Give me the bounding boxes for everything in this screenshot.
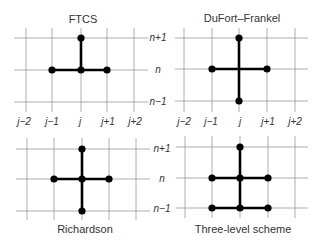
panel-richardson: Richardson	[16, 138, 150, 235]
stencil-node	[77, 34, 84, 41]
stencil-node	[78, 145, 85, 152]
stencil-node	[78, 207, 85, 214]
panel-title: FTCS	[69, 13, 98, 25]
panel-title: Three-level scheme	[195, 223, 292, 235]
stencil-node	[263, 65, 270, 72]
stencil-node	[236, 204, 243, 211]
j-axis-label: j+1	[99, 116, 115, 127]
n-axis-label: n+1	[154, 143, 171, 154]
n-axis-label: n+1	[150, 32, 167, 43]
n-axis-label: n−1	[154, 203, 171, 214]
stencil-node	[235, 34, 242, 41]
n-axis-label: n	[155, 64, 161, 75]
stencil-node	[208, 174, 215, 181]
n-axis-label: n−1	[150, 96, 167, 107]
stencil-node	[264, 204, 271, 211]
stencil-node	[236, 174, 243, 181]
stencil-node	[208, 65, 215, 72]
panel-dufort-frankel: DuFort–Frankel	[175, 12, 308, 112]
panel-three-level: Three-level scheme	[176, 136, 308, 235]
stencil-node	[103, 66, 110, 73]
panel-title: DuFort–Frankel	[204, 12, 280, 24]
stencil-node	[50, 175, 57, 182]
stencil-node	[264, 174, 271, 181]
j-axis-label: j+2	[286, 116, 302, 127]
j-axis-label: j	[77, 116, 82, 127]
n-axis-label: n	[159, 173, 165, 184]
j-axis-label: j−1	[202, 116, 218, 127]
j-axis-label: j−2	[175, 116, 191, 127]
panel-ftcs: FTCS	[14, 13, 148, 112]
stencil-node	[208, 204, 215, 211]
stencil-node	[48, 66, 55, 73]
j-axis-label: j+1	[259, 116, 275, 127]
stencil-node	[236, 143, 243, 150]
stencil-node	[78, 175, 85, 182]
j-axis-label: j+2	[126, 116, 142, 127]
stencil-node	[77, 66, 84, 73]
j-axis-label: j−1	[43, 116, 59, 127]
j-axis-label: j−2	[15, 116, 31, 127]
stencil-node	[105, 175, 112, 182]
j-axis-label: j	[237, 116, 242, 127]
stencil-node	[235, 97, 242, 104]
stencil-diagram-canvas: FTCSDuFort–FrankelRichardsonThree-level …	[0, 0, 324, 246]
finite-difference-stencil-diagram: FTCSDuFort–FrankelRichardsonThree-level …	[0, 0, 324, 246]
panel-title: Richardson	[57, 223, 113, 235]
